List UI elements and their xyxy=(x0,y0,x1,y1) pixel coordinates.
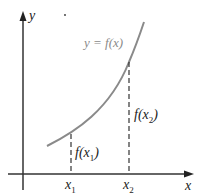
x-axis-arrow-icon xyxy=(184,171,194,178)
x-axis-label: x xyxy=(185,179,191,193)
value-label-f-x2: f(x2) xyxy=(134,108,158,125)
tick-label-x2: x2 xyxy=(123,178,134,193)
diagram-canvas xyxy=(0,0,199,193)
value-label-f-x1: f(x1) xyxy=(75,146,99,163)
y-axis-label: y xyxy=(29,9,35,23)
y-axis-arrow-icon xyxy=(20,11,27,21)
tick-label-x1: x1 xyxy=(65,178,76,193)
curve-label: y = f(x) xyxy=(84,36,123,49)
dot-mark xyxy=(64,14,66,16)
